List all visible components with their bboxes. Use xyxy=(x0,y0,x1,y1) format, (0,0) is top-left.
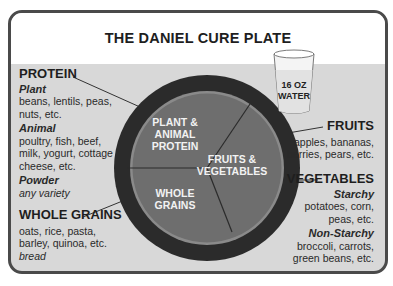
svg-text:WHOLE: WHOLE xyxy=(155,187,194,199)
protein-powder-label: Powder xyxy=(19,174,113,187)
protein-plant-label: Plant xyxy=(19,83,113,96)
fruits-items: berries, pears, etc. xyxy=(287,148,374,161)
fruits-items: apples, bananas, xyxy=(287,136,374,149)
fruits-legend: FRUITS apples, bananas, berries, pears, … xyxy=(287,120,374,161)
protein-legend: PROTEIN Plant beans, lentils, peas, nuts… xyxy=(19,68,113,199)
vegetables-starchy-items: peas, etc. xyxy=(287,213,374,226)
grains-items: oats, rice, pasta, xyxy=(19,225,122,238)
fruits-heading: FRUITS xyxy=(287,120,374,133)
vegetables-starchy-label: Starchy xyxy=(287,188,374,201)
svg-text:PROTEIN: PROTEIN xyxy=(152,140,199,152)
plate-section-protein: PLANT & ANIMAL PROTEIN xyxy=(152,116,199,152)
vegetables-nonstarchy-items: green beans, etc. xyxy=(287,252,374,265)
protein-animal-items: milk, yogurt, cottage xyxy=(19,147,113,160)
protein-animal-items: poultry, fish, beef, xyxy=(19,135,113,148)
grains-items: bread xyxy=(19,250,122,263)
vegetables-starchy-items: potatoes, corn, xyxy=(287,200,374,213)
vegetables-nonstarchy-items: broccoli, carrots, xyxy=(287,240,374,253)
plate-section-grains: WHOLE GRAINS xyxy=(155,187,196,211)
glass-icon: 16 OZ WATER xyxy=(274,50,314,114)
svg-text:VEGETABLES: VEGETABLES xyxy=(197,165,267,177)
vegetables-legend: VEGETABLES Starchy potatoes, corn, peas,… xyxy=(287,173,374,265)
protein-plant-items: beans, lentils, peas, xyxy=(19,95,113,108)
protein-heading: PROTEIN xyxy=(19,68,113,81)
svg-text:FRUITS &: FRUITS & xyxy=(208,153,257,165)
protein-plant-items: nuts, etc. xyxy=(19,108,113,121)
vegetables-nonstarchy-label: Non-Starchy xyxy=(287,227,374,240)
protein-powder-items: any variety xyxy=(19,187,113,200)
svg-text:ANIMAL: ANIMAL xyxy=(155,128,196,140)
protein-animal-items: cheese, etc. xyxy=(19,160,113,173)
protein-animal-label: Animal xyxy=(19,122,113,135)
grains-items: barley, quinoa, etc. xyxy=(19,237,122,250)
grains-legend: WHOLE GRAINS oats, rice, pasta, barley, … xyxy=(19,209,122,262)
vegetables-heading: VEGETABLES xyxy=(287,173,374,186)
svg-text:WATER: WATER xyxy=(278,91,310,101)
svg-text:PLANT &: PLANT & xyxy=(152,116,198,128)
svg-text:16 OZ: 16 OZ xyxy=(281,80,307,90)
grains-heading: WHOLE GRAINS xyxy=(19,209,122,222)
svg-text:GRAINS: GRAINS xyxy=(155,199,196,211)
